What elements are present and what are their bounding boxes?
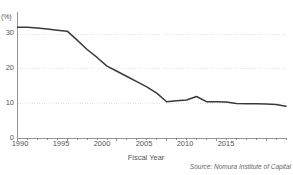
x-axis-tick-label-2000: 2000 xyxy=(89,140,115,148)
y-axis-tick-label-10: 10 xyxy=(0,99,14,107)
x-axis-tick-label-2005: 2005 xyxy=(131,140,157,148)
y-axis-unit-label: (%) xyxy=(1,13,11,21)
chart-container: (%) 30 20 10 0 1990 1995 2000 2005 2010 … xyxy=(0,0,293,175)
x-axis-tick-label-1995: 1995 xyxy=(48,140,74,148)
x-axis-tick-label-1990: 1990 xyxy=(7,140,33,148)
data-series-line xyxy=(18,27,287,106)
x-axis-tick-label-2015: 2015 xyxy=(213,140,239,148)
x-axis-tick-label-2010: 2010 xyxy=(172,140,198,148)
x-axis-title: Fiscal Year xyxy=(86,153,206,162)
y-axis-tick-label-20: 20 xyxy=(0,64,14,72)
y-axis-tick-label-30: 30 xyxy=(0,29,14,37)
gridlines-group xyxy=(18,34,287,103)
source-attribution: Source: Nomura Institute of Capital xyxy=(190,163,291,171)
plot-area xyxy=(0,0,293,175)
